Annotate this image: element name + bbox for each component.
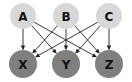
node-label: B [61,10,70,24]
node-label: C [105,10,114,24]
node-label: A [18,10,28,24]
edge-c-to-y [76,25,101,53]
node-a: A [10,3,36,29]
node-b: B [53,3,79,29]
node-label: Z [105,58,114,72]
node-y: Y [52,50,80,78]
edge-b-to-x [33,25,58,53]
edge-b-to-z [74,25,99,53]
node-c: C [96,3,122,29]
node-x: X [9,50,37,78]
node-z: Z [95,50,123,78]
node-label: X [18,58,28,72]
edge-a-to-y [31,25,56,53]
bipartite-graph: ABCXYZ [0,0,132,82]
node-label: Y [61,58,71,72]
